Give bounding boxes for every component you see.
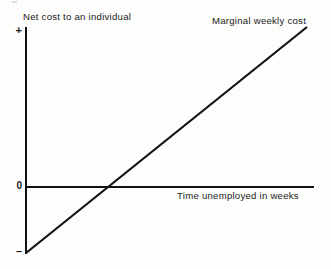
series-label-marginal-weekly-cost: Marginal weekly cost [212,15,306,27]
y-axis-title: Net cost to an individual [23,11,131,23]
marginal-weekly-cost-line [26,27,307,253]
y-axis-minus-label: – [8,246,22,256]
y-axis-zero-label: 0 [8,181,22,191]
economics-line-chart: + 0 – Net cost to an individual Marginal… [0,0,331,269]
plot-area [0,0,331,269]
x-axis-title: Time unemployed in weeks [177,190,299,202]
y-axis-plus-label: + [8,25,22,35]
